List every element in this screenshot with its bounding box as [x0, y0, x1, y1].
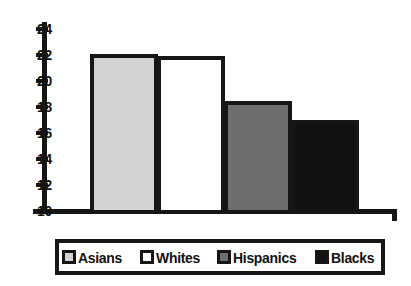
bar-whites	[157, 56, 225, 214]
y-tick-label: 12	[21, 176, 52, 193]
y-tick-label: 18	[21, 98, 52, 115]
legend-swatch-hispanics	[217, 250, 231, 264]
legend-label: Whites	[156, 249, 200, 266]
bar-fill	[94, 58, 154, 210]
legend: AsiansWhitesHispanicsBlacks	[55, 239, 385, 275]
bar-blacks	[291, 120, 359, 214]
legend-label: Hispanics	[233, 249, 296, 266]
legend-item-whites: Whites	[140, 249, 203, 266]
legend-item-hispanics: Hispanics	[217, 249, 301, 266]
bar-fill	[228, 105, 288, 211]
y-tick-label: 16	[21, 124, 52, 141]
legend-items: AsiansWhitesHispanicsBlacks	[56, 249, 384, 266]
y-tick-label: 24	[21, 20, 52, 37]
y-tick-label: 20	[21, 72, 52, 89]
legend-item-blacks: Blacks	[315, 249, 378, 266]
bar-fill	[295, 124, 355, 210]
y-tick-label: 22	[21, 46, 52, 63]
legend-label: Asians	[78, 249, 122, 266]
legend-item-asians: Asians	[62, 249, 125, 266]
plot-area: 2422201816141210	[0, 0, 411, 232]
legend-swatch-blacks	[315, 250, 329, 264]
y-tick-label: 10	[21, 202, 52, 219]
x-axis-end-tick	[392, 209, 397, 221]
legend-label: Blacks	[331, 249, 374, 266]
legend-swatch-asians	[62, 250, 76, 264]
legend-swatch-whites	[140, 250, 154, 264]
bar-fill	[161, 60, 221, 210]
y-tick-label: 14	[21, 150, 52, 167]
bar-asians	[90, 54, 158, 214]
bar-hispanics	[224, 101, 292, 215]
bar-chart-figure: 2422201816141210 AsiansWhitesHispanicsBl…	[0, 0, 411, 286]
